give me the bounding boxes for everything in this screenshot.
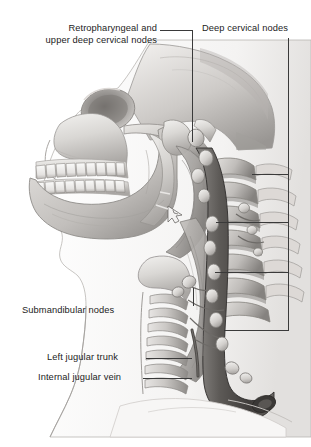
label-submandibular-nodes: Submandibular nodes: [22, 305, 114, 317]
label-retropharyngeal-and-upper-deep-cervical-nodes: Retropharyngeal and upper deep cervical …: [0, 23, 157, 46]
label-line-1: Internal jugular vein: [38, 372, 121, 384]
label-line-1: Retropharyngeal and: [0, 23, 157, 35]
leader-internal-jugular-vein: [143, 378, 192, 379]
anatomy-figure: Retropharyngeal and upper deep cervical …: [0, 0, 311, 447]
label-deep-cervical-nodes: Deep cervical nodes: [202, 23, 288, 35]
label-line-1: Deep cervical nodes: [202, 23, 288, 35]
leader-left-jugular-trunk: [146, 358, 192, 359]
leader-retropharyngeal-vertical: [192, 30, 193, 142]
label-line-1: Left jugular trunk: [47, 352, 118, 364]
label-line-2: upper deep cervical nodes: [0, 35, 157, 47]
leader-submandibular-vertical: [193, 288, 194, 306]
leader-deep-cervical-vertical: [288, 38, 289, 330]
leader-deep-cervical-branch-1: [252, 174, 289, 175]
leader-deep-cervical-branch-2: [216, 222, 289, 223]
leader-retropharyngeal-horizontal: [160, 30, 192, 31]
label-left-jugular-trunk: Left jugular trunk: [47, 352, 118, 364]
upper-teeth: [36, 159, 128, 179]
leader-deep-cervical-branch-3: [215, 272, 289, 273]
label-line-1: Submandibular nodes: [22, 305, 114, 317]
leader-deep-cervical-branch-4: [224, 330, 289, 331]
label-internal-jugular-vein: Internal jugular vein: [38, 372, 121, 384]
